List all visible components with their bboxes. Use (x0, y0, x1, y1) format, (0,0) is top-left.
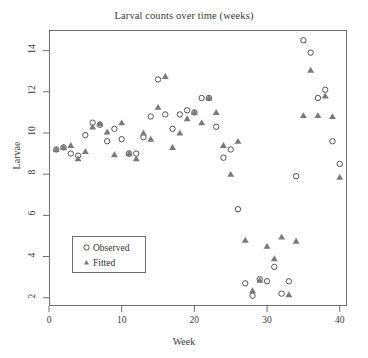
y-tick-label: 8 (27, 163, 37, 181)
filled-triangle-icon (79, 258, 93, 267)
y-tick-label: 12 (27, 81, 37, 99)
x-tick-label: 30 (255, 315, 279, 325)
chart-figure: Larval counts over time (weeks) Larvae W… (0, 0, 368, 358)
y-tick-label: 4 (27, 246, 37, 264)
open-circle-icon (79, 243, 93, 252)
chart-legend: Observed Fitted (72, 236, 146, 273)
x-tick-label: 20 (182, 315, 206, 325)
x-tick-label: 10 (110, 315, 134, 325)
x-tick-label: 40 (328, 315, 352, 325)
y-axis-label: Larvae (11, 126, 22, 186)
y-tick-label: 10 (27, 122, 37, 140)
legend-item-observed: Observed (79, 240, 129, 255)
y-tick-label: 2 (27, 287, 37, 305)
x-tick-label: 0 (37, 315, 61, 325)
y-tick-label: 6 (27, 204, 37, 222)
legend-label-observed: Observed (93, 243, 129, 253)
legend-item-fitted: Fitted (79, 255, 115, 270)
x-axis-label: Week (0, 336, 368, 347)
y-tick-label: 14 (27, 40, 37, 58)
chart-title: Larval counts over time (weeks) (0, 10, 368, 21)
legend-label-fitted: Fitted (93, 258, 115, 268)
